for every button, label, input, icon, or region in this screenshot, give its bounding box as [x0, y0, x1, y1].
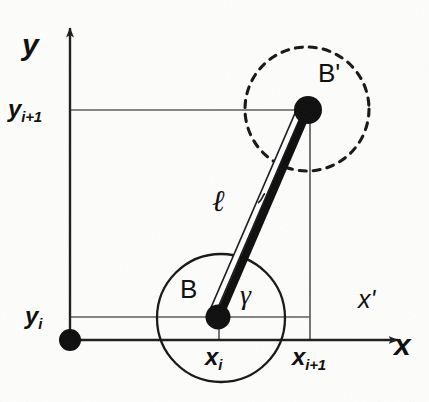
y-axis-label: y: [22, 30, 39, 60]
link-bar: [219, 110, 308, 317]
tick-label-x-i: xi: [205, 345, 222, 369]
point-B-prime-dot: [294, 96, 322, 124]
x-axis-label: x: [394, 330, 411, 360]
x-prime-axis-label: x': [358, 287, 375, 312]
angle-gamma-label: γ: [240, 281, 251, 309]
axes: [70, 28, 398, 340]
tick-base: x: [292, 343, 305, 370]
body-label-B-prime: B': [318, 60, 340, 86]
tick-subscript: i: [38, 315, 42, 332]
origin-dot: [59, 329, 81, 351]
tick-subscript: i: [218, 356, 222, 373]
tick-base: y: [8, 95, 21, 122]
kinematics-figure: y x x' yi+1 yi xi xi+1 B B' ℓ γ: [0, 0, 429, 402]
link-length-label: ℓ: [212, 186, 225, 216]
point-B-dot: [206, 305, 231, 330]
tick-base: y: [25, 302, 38, 329]
tick-label-y-i-plus-1: yi+1: [8, 97, 42, 121]
tick-subscript: i+1: [305, 356, 325, 373]
body-label-B: B: [180, 276, 197, 302]
tick-subscript: i+1: [21, 108, 41, 125]
gridlines: [70, 110, 310, 341]
tick-label-y-i: yi: [25, 304, 42, 328]
tick-label-x-i-plus-1: xi+1: [292, 345, 326, 369]
tick-base: x: [205, 343, 218, 370]
